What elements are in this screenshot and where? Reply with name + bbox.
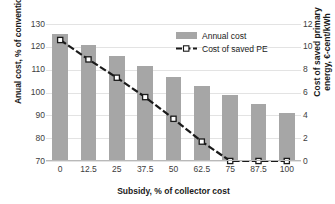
x-tick-0: 0 (46, 165, 74, 174)
y-tick-right-10: 10 (303, 42, 325, 51)
x-tick-25: 25 (103, 165, 131, 174)
legend-item-cost-of-saved-pe: Cost of saved PE (176, 42, 268, 55)
x-axis-line (46, 160, 301, 161)
x-tick-62-5: 62.5 (188, 165, 216, 174)
legend-label-annual-cost: Annual cost (202, 31, 246, 41)
y-tick-left-120: 120 (21, 42, 45, 51)
y-tick-left-70: 70 (21, 157, 45, 166)
bar-swatch-icon (176, 32, 197, 39)
line-path (60, 40, 287, 161)
x-tick-75: 75 (216, 165, 244, 174)
dashed-line-swatch-icon (176, 44, 197, 53)
y-tick-right-4: 4 (303, 111, 325, 120)
line-marker-12-5 (86, 57, 91, 62)
x-tick-50: 50 (159, 165, 187, 174)
y-tick-right-12: 12 (303, 20, 325, 29)
y-tick-left-130: 130 (21, 20, 45, 29)
line-marker-50 (171, 116, 176, 121)
line-marker-37-5 (143, 95, 148, 100)
y-axis-left-title: Anual cost, % of conventional (13, 0, 23, 119)
y-tick-right-8: 8 (303, 65, 325, 74)
y-tick-right-6: 6 (303, 88, 325, 97)
x-tick-37-5: 37.5 (131, 165, 159, 174)
x-tick-12-5: 12.5 (74, 165, 102, 174)
chart-legend: Annual cost Cost of saved PE (176, 29, 268, 55)
line-marker-25 (114, 75, 119, 80)
x-tick-87-5: 87.5 (244, 165, 272, 174)
legend-label-cost-of-saved-pe: Cost of saved PE (202, 44, 268, 54)
line-marker-0 (58, 37, 63, 42)
y-tick-left-80: 80 (21, 134, 45, 143)
x-axis-title: Subsidy, % of collector cost (46, 186, 301, 196)
y-axis-right-title: Cost of saved primary energy, €-cent/kWh (312, 0, 332, 122)
x-tick-100: 100 (273, 165, 301, 174)
line-marker-62-5 (199, 139, 204, 144)
chart-canvas: Anual cost, % of conventional Cost of sa… (0, 0, 335, 204)
y-tick-left-110: 110 (21, 65, 45, 74)
chart-figure: Anual cost, % of conventional Cost of sa… (0, 0, 335, 204)
y-tick-right-0: 0 (303, 157, 325, 166)
legend-item-annual-cost: Annual cost (176, 29, 268, 42)
y-tick-left-100: 100 (21, 88, 45, 97)
y-tick-left-90: 90 (21, 111, 45, 120)
y-tick-right-2: 2 (303, 134, 325, 143)
